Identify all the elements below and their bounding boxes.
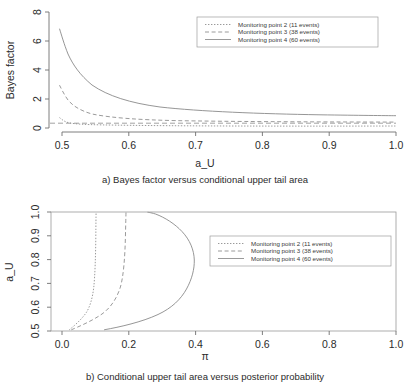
panel-b-ytick-2: 0.7 (29, 276, 41, 291)
panel-a-bayes-factor: 0 2 4 6 8 Bayes factor 0.5 0.6 0.7 0.8 (0, 0, 410, 190)
panel-b-legend-label-0: Monitoring point 2 (11 events) (251, 240, 332, 247)
panel-b-x-axis-title: π (201, 350, 208, 362)
panel-a-y-axis-title: Bayes factor (4, 40, 16, 99)
panel-b-y-axis-title: a_U (3, 262, 15, 281)
panel-b-legend-label-1: Monitoring point 3 (38 events) (251, 247, 333, 254)
panel-b-xtick-2: 0.4 (188, 338, 203, 350)
panel-a-xtick-5: 1.0 (389, 139, 404, 151)
panel-b-y-axis: 0.5 0.6 0.7 0.8 0.9 1.0 a_U (3, 205, 51, 339)
panel-b-legend-label-2: Monitoring point 4 (60 events) (251, 255, 333, 262)
panel-b-ytick-4: 0.9 (29, 228, 41, 243)
panel-a-curve-point-3 (60, 85, 397, 122)
panel-b-xtick-0: 0.0 (55, 338, 70, 350)
panel-b-tail-area: 0.5 0.6 0.7 0.8 0.9 1.0 a_U 0.0 0.2 0.4 … (0, 190, 410, 382)
panel-b-ytick-1: 0.6 (29, 300, 41, 315)
panel-b-xtick-5: 1.0 (389, 338, 404, 350)
panel-a-legend-label-1: Monitoring point 3 (38 events) (238, 28, 320, 35)
panel-b-xtick-1: 0.2 (121, 338, 136, 350)
panel-a-xtick-4: 0.9 (322, 139, 337, 151)
panel-a-ytick-4: 4 (31, 67, 43, 73)
panel-a-ytick-6: 6 (31, 38, 43, 44)
panel-a-ytick-0: 0 (31, 125, 43, 131)
panel-a-xtick-0: 0.5 (55, 139, 70, 151)
panel-b-curve-point-3 (71, 212, 126, 329)
panel-a-y-axis: 0 2 4 6 8 Bayes factor (4, 9, 49, 131)
panel-b-ytick-5: 1.0 (29, 205, 41, 220)
panel-b-legend: Monitoring point 2 (11 events) Monitorin… (210, 236, 391, 266)
panel-a-caption: a) Bayes factor versus conditional upper… (102, 174, 309, 185)
panel-a-legend-label-2: Monitoring point 4 (60 events) (238, 36, 320, 43)
panel-a-ytick-2: 2 (31, 96, 43, 102)
panel-b-caption: b) Conditional upper tail area versus po… (86, 371, 324, 382)
panel-b-xtick-3: 0.6 (255, 338, 270, 350)
figure-container: 0 2 4 6 8 Bayes factor 0.5 0.6 0.7 0.8 (0, 0, 410, 382)
panel-a-x-axis-title: a_U (195, 157, 214, 169)
panel-b-ytick-3: 0.8 (29, 252, 41, 267)
panel-a-svg: 0 2 4 6 8 Bayes factor 0.5 0.6 0.7 0.8 (0, 0, 410, 190)
panel-b-curve-point-4 (104, 212, 194, 329)
panel-b-ytick-0: 0.5 (29, 324, 41, 339)
panel-a-xtick-3: 0.8 (255, 139, 270, 151)
panel-b-xtick-4: 0.8 (322, 338, 337, 350)
panel-a-x-axis: 0.5 0.6 0.7 0.8 0.9 1.0 a_U (55, 132, 404, 169)
panel-b-x-axis: 0.0 0.2 0.4 0.6 0.8 1.0 π (55, 331, 404, 362)
panel-a-xtick-2: 0.7 (188, 139, 203, 151)
panel-a-legend-label-0: Monitoring point 2 (11 events) (238, 21, 319, 28)
panel-a-xtick-1: 0.6 (121, 139, 136, 151)
panel-a-ytick-8: 8 (31, 9, 43, 15)
panel-b-curve-point-2 (69, 212, 96, 329)
panel-b-svg: 0.5 0.6 0.7 0.8 0.9 1.0 a_U 0.0 0.2 0.4 … (0, 190, 410, 382)
panel-a-legend: Monitoring point 2 (11 events) Monitorin… (197, 17, 378, 47)
